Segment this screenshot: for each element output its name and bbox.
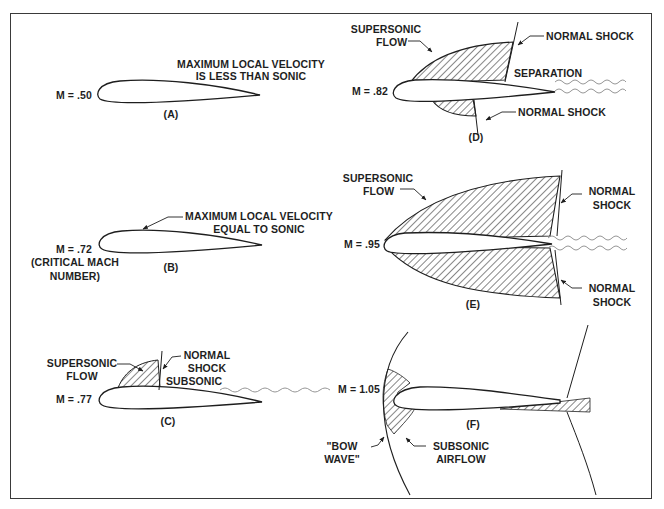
panel-c-mach-label: M = .77 xyxy=(40,393,92,406)
panel-b-mach-label: M = .72 xyxy=(40,243,92,256)
transonic-flow-figure: M = .50 MAXIMUM LOCAL VELOCITY IS LESS T… xyxy=(0,0,664,509)
panel-f-bow-line1: "BOW xyxy=(318,440,366,453)
panel-c-supersonic-line1: SUPERSONIC xyxy=(46,357,118,370)
panel-f-subsonic-line2: AIRFLOW xyxy=(428,453,494,466)
panel-e-mach-label: M = .95 xyxy=(320,238,380,251)
panel-d-lower-shock-label: NORMAL SHOCK xyxy=(518,106,606,119)
panel-d-id: (D) xyxy=(463,131,489,144)
panel-e-lower-shock-line1: NORMAL xyxy=(584,282,640,295)
panel-a-airfoil xyxy=(98,80,260,103)
panel-e-upper-shock-line1: NORMAL xyxy=(584,185,640,198)
panel-d-supersonic-line2: FLOW xyxy=(376,36,407,49)
panel-a-note-line2: IS LESS THAN SONIC xyxy=(176,70,326,83)
panel-b-note-line2: EQUAL TO SONIC xyxy=(184,223,334,236)
panel-c-subsonic-label: SUBSONIC xyxy=(166,375,222,388)
panel-a-id: (A) xyxy=(158,108,184,121)
panel-d-upper-shock-label: NORMAL SHOCK xyxy=(546,30,634,43)
panel-e-supersonic-line1: SUPERSONIC xyxy=(342,172,414,185)
panel-b-note-line1: MAXIMUM LOCAL VELOCITY xyxy=(184,210,334,223)
panel-f-mach-label: M = 1.05 xyxy=(320,383,380,396)
panel-b-arrow xyxy=(143,217,183,229)
panel-e-id: (E) xyxy=(460,298,486,311)
panel-c-shock-line xyxy=(159,351,162,390)
panel-e-lower-shock-line2: SHOCK xyxy=(584,296,640,309)
panel-f-bow-line2: WAVE" xyxy=(318,453,366,466)
panel-c-shock-line2: SHOCK xyxy=(180,362,234,375)
panel-c-shock-line1: NORMAL xyxy=(180,349,234,362)
panel-f-airfoil xyxy=(371,325,596,495)
panel-c-supersonic-line2: FLOW xyxy=(46,370,118,383)
panel-c-wake xyxy=(220,388,330,392)
panel-f-id: (F) xyxy=(460,418,486,431)
panel-a-mach-label: M = .50 xyxy=(40,89,92,102)
panel-e-supersonic-line2: FLOW xyxy=(363,185,394,198)
panel-b-id: (B) xyxy=(158,261,184,274)
panel-f-subsonic-line1: SUBSONIC xyxy=(428,440,494,453)
panel-b-mach-note-line2: NUMBER) xyxy=(30,270,120,283)
panel-d-supersonic-line1: SUPERSONIC xyxy=(350,23,422,36)
panel-e-upper-shock-line2: SHOCK xyxy=(584,199,640,212)
panel-c-id: (C) xyxy=(155,415,181,428)
panel-b-mach-note-line1: (CRITICAL MACH xyxy=(30,256,120,269)
panel-d-mach-label: M = .82 xyxy=(332,85,388,98)
panel-d-separation-label: SEPARATION xyxy=(514,67,582,80)
